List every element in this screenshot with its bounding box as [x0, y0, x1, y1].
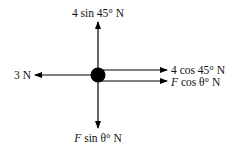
free-body-diagram: 4 sin 45° N 3 N 4 cos 45° N F cos θ° N F… [0, 0, 236, 149]
label-left: 3 N [14, 69, 32, 81]
label-right-upper: 4 cos 45° N [171, 64, 226, 76]
label-right-lower: F cos θ° N [170, 76, 221, 88]
label-down: F sin θ° N [73, 132, 122, 144]
object-particle [91, 68, 106, 83]
label-up: 4 sin 45° N [72, 7, 125, 19]
